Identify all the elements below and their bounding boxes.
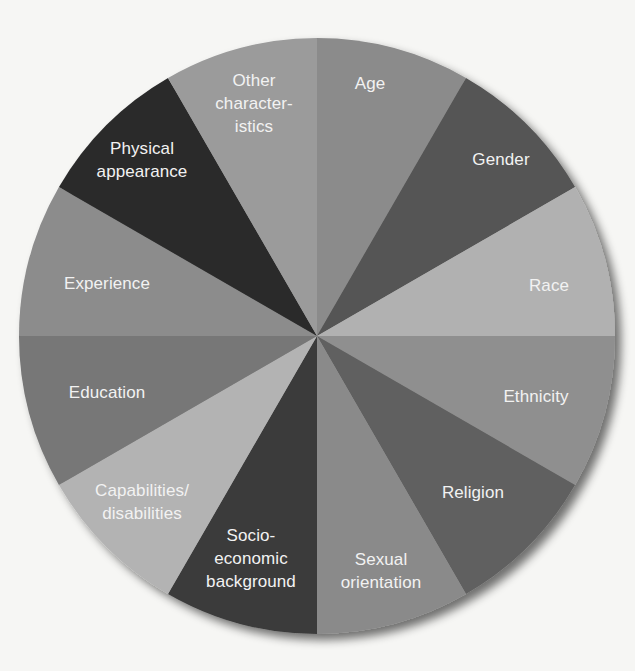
label-sexual-orientation: Sexual orientation [341,548,422,594]
label-other-characteristics: Other character- istics [215,69,293,138]
label-experience: Experience [64,272,150,295]
label-capabilities-disabilities: Capabilities/ disabilities [95,479,189,525]
diversity-wheel: AgeGenderRaceEthnicityReligionSexual ori… [0,0,635,671]
pie-slices [19,38,615,634]
label-socio-economic-background: Socio- economic background [206,524,296,593]
label-race: Race [529,274,569,297]
label-gender: Gender [472,148,529,171]
pie-chart [0,0,635,671]
label-age: Age [355,72,386,95]
label-ethnicity: Ethnicity [503,385,568,408]
label-religion: Religion [442,481,504,504]
label-physical-appearance: Physical appearance [97,137,188,183]
label-education: Education [69,381,146,404]
